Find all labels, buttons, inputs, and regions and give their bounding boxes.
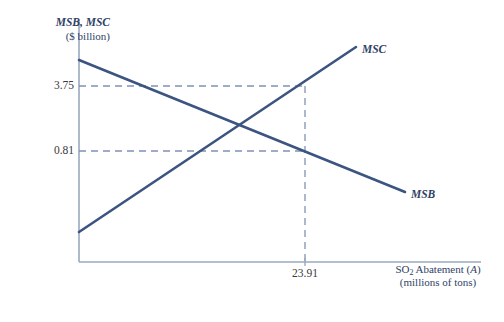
y-tick-label-081: 0.81 [30,144,74,158]
y-axis-title-line2: ($ billion) [18,30,110,43]
x-axis-title: SO2 Abatement (A) (millions of tons) [378,263,498,289]
curve-msb [79,60,405,192]
y-axis-title-line1: MSB, MSC [56,16,110,28]
x-axis-title-subscript: 2 [409,268,413,277]
curve-msc [79,47,356,232]
curve-label-msb: MSB [411,188,435,202]
x-axis-title-line1: SO2 Abatement (A) [378,263,498,276]
y-axis-title: MSB, MSC ($ billion) [18,16,110,43]
x-axis-title-line2: (millions of tons) [378,276,498,289]
chart-figure: MSB, MSC ($ billion) SO2 Abatement (A) (… [0,0,504,322]
y-tick-label-375: 3.75 [30,79,74,93]
x-axis-title-variable: A [470,263,477,275]
x-tick-label-2391: 23.91 [275,267,335,281]
curve-label-msc: MSC [362,43,386,57]
